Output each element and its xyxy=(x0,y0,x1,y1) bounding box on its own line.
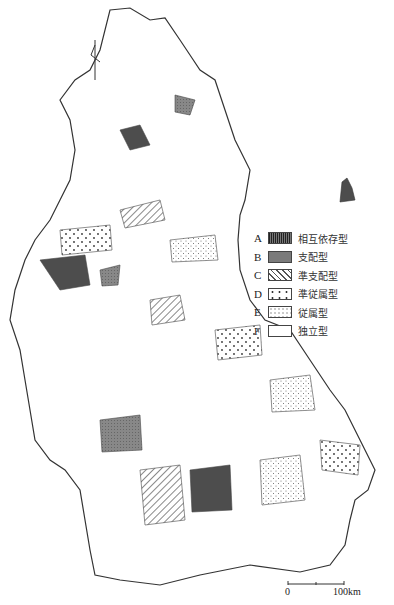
swatch-dark-fill-icon xyxy=(268,251,292,263)
swatch-large-dots-icon xyxy=(268,288,292,300)
legend-row-e: E 従属型 xyxy=(254,303,364,322)
legend-row-f: F 独立型 xyxy=(254,322,364,341)
island-patch xyxy=(340,178,355,202)
legend-row-d: D 準従属型 xyxy=(254,285,364,304)
swatch-small-dots-icon xyxy=(268,306,292,318)
swatch-blank-icon xyxy=(268,325,292,337)
scale-bar: 0 100km xyxy=(285,580,365,604)
swatch-diagonal-hatch-icon xyxy=(268,269,292,281)
legend-row-a: A 相互依存型 xyxy=(254,229,364,248)
swatch-dense-hatch-icon xyxy=(268,232,292,244)
legend: A 相互依存型 B 支配型 C 準支配型 D 準従属型 E 従属型 F 独立型 xyxy=(254,229,364,340)
legend-row-c: C 準支配型 xyxy=(254,266,364,285)
legend-row-b: B 支配型 xyxy=(254,248,364,267)
